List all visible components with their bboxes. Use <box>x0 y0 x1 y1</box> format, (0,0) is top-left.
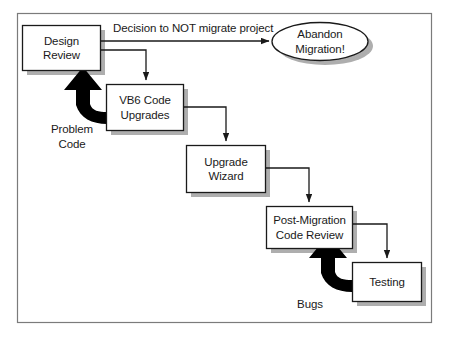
problem-code-line-1: Problem <box>51 122 93 137</box>
node-abandon-migration[interactable] <box>272 23 368 61</box>
edge-upgrade-wizard-to-post-migration <box>265 168 309 202</box>
node-testing[interactable] <box>353 263 422 302</box>
flowchart-diagram: Design Review VB6 Code Upgrades Upgrade … <box>0 0 451 340</box>
problem-code-line-2: Code <box>58 137 85 152</box>
edge-label-problem-code: Problem Code <box>41 122 103 151</box>
edge-label-bugs: Bugs <box>290 297 330 312</box>
edge-vb6-to-upgrade-wizard <box>182 107 226 141</box>
node-post-migration-code-review[interactable] <box>267 207 353 249</box>
edge-label-decision: Decision to NOT migrate project <box>113 21 273 36</box>
node-upgrade-wizard[interactable] <box>187 146 266 193</box>
node-vb6-code-upgrades[interactable] <box>107 85 184 131</box>
thick-arrow-problem-code <box>64 67 107 124</box>
node-design-review[interactable] <box>23 26 101 71</box>
edge-post-migration-to-testing <box>352 224 387 258</box>
edge-design-review-to-vb6 <box>100 50 146 80</box>
diagram-canvas <box>0 0 451 340</box>
